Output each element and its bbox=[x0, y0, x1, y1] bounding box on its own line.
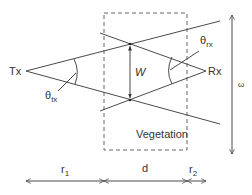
theta-tx-label: θtx bbox=[45, 89, 57, 104]
theta-rx-label: θrx bbox=[200, 34, 213, 49]
theta-tx-arc bbox=[74, 59, 77, 84]
width-label: W bbox=[135, 66, 147, 78]
tx-label: Tx bbox=[9, 65, 22, 77]
r2-label: r2 bbox=[189, 163, 198, 178]
r1-label: r1 bbox=[61, 163, 70, 178]
upper-intersection-point bbox=[129, 43, 132, 46]
theta-tx-leader bbox=[58, 73, 76, 91]
vegetation-label: Vegetation bbox=[136, 128, 188, 140]
lower-intersection-point bbox=[129, 99, 132, 102]
theta-rx-subscript: rx bbox=[206, 40, 213, 49]
omega-label: ω bbox=[238, 80, 244, 89]
r2-subscript: 2 bbox=[193, 169, 198, 178]
vegetation-link-diagram: W θtx θrx Tx Rx Vegetation ω r1 d r2 bbox=[0, 0, 252, 195]
rx-label: Rx bbox=[208, 65, 222, 77]
r1-subscript: 1 bbox=[65, 169, 70, 178]
theta-rx-arc bbox=[169, 57, 173, 84]
theta-tx-subscript: tx bbox=[51, 95, 57, 104]
tx-beam-upper bbox=[26, 21, 220, 71]
d-label: d bbox=[142, 162, 148, 174]
rx-beam-lower bbox=[100, 71, 206, 111]
